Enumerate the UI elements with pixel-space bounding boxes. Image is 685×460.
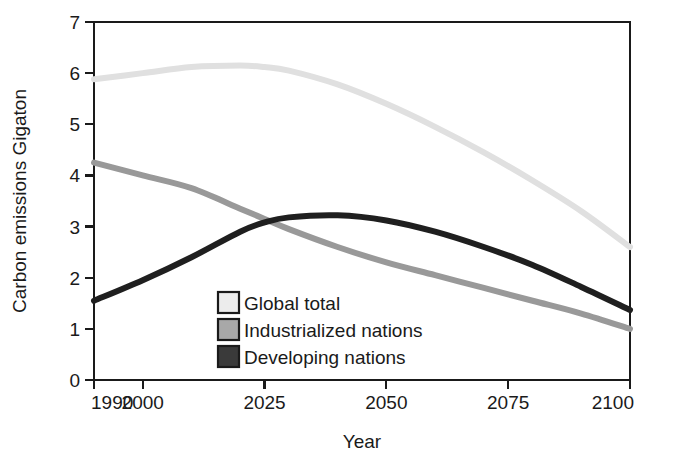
series-line-developing-nations <box>94 215 630 310</box>
y-tick-label: 3 <box>69 217 80 238</box>
y-tick-label: 6 <box>69 63 80 84</box>
x-tick-label: 2000 <box>122 392 164 413</box>
legend-swatch <box>218 292 239 313</box>
x-tick-label: 2025 <box>243 392 285 413</box>
emissions-line-chart: 01234567 199020002025205020752100 Year C… <box>0 0 685 460</box>
x-axis-ticks: 199020002025205020752100 <box>91 380 634 413</box>
legend-label: Industrialized nations <box>244 320 423 341</box>
y-tick-label: 7 <box>69 12 80 33</box>
legend-label: Global total <box>244 293 340 314</box>
legend-label: Developing nations <box>244 347 406 368</box>
y-tick-label: 1 <box>69 319 80 340</box>
y-tick-label: 4 <box>69 165 80 186</box>
y-tick-label: 0 <box>69 370 80 391</box>
chart-figure: 01234567 199020002025205020752100 Year C… <box>0 0 685 460</box>
y-tick-label: 2 <box>69 268 80 289</box>
y-axis-ticks: 01234567 <box>69 12 94 391</box>
x-tick-label: 2050 <box>365 392 407 413</box>
legend-swatch <box>218 346 239 367</box>
y-tick-label: 5 <box>69 114 80 135</box>
x-axis-title: Year <box>343 431 382 452</box>
x-tick-label: 2075 <box>487 392 529 413</box>
y-axis-title: Carbon emissions Gigaton <box>9 89 30 313</box>
series-lines <box>94 65 630 328</box>
legend-swatch <box>218 319 239 340</box>
chart-legend: Global totalIndustrialized nationsDevelo… <box>218 292 423 368</box>
x-tick-label: 2100 <box>592 392 634 413</box>
